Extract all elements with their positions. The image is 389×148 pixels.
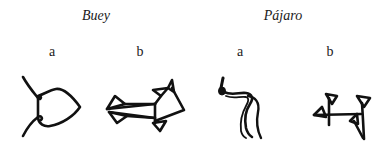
bird-cuneiform-icon xyxy=(314,94,370,139)
ox-cuneiform-icon xyxy=(107,80,184,131)
glyph-canvas xyxy=(0,0,389,148)
ox-pictograph-icon xyxy=(23,77,80,136)
bird-pictograph-icon xyxy=(219,78,262,138)
